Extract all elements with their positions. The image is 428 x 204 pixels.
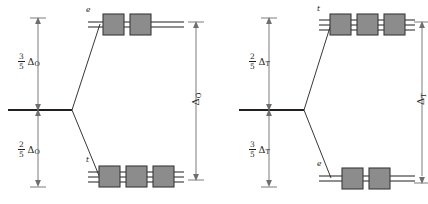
delta-symbol: Δ xyxy=(415,98,426,105)
lower-splitting-delta: ΔT xyxy=(259,145,270,155)
delta-subscript: T xyxy=(420,93,428,98)
orbital-box xyxy=(126,166,147,187)
upper-splitting-fraction: 2 5 xyxy=(249,53,256,70)
lower-level-label: t xyxy=(86,156,89,164)
lower-splitting-fraction: 3 5 xyxy=(249,141,256,158)
lower-measure-arrowhead-bottom xyxy=(35,180,41,187)
orbital-box xyxy=(369,168,390,189)
total-splitting-label: ΔT xyxy=(416,86,426,112)
upper-splitting-delta: ΔT xyxy=(259,57,270,67)
lower-measure-arrowhead-bottom xyxy=(266,180,272,187)
upper-level-label: t xyxy=(317,5,320,13)
correlation-line-upper xyxy=(304,24,331,110)
orbital-box xyxy=(130,14,151,35)
correlation-line-lower xyxy=(72,110,100,178)
octahedral-diagram-graphics xyxy=(0,0,214,204)
delta-symbol: Δ xyxy=(190,98,201,105)
tetrahedral-diagram-graphics xyxy=(214,0,428,204)
delta-subscript: O xyxy=(34,60,39,68)
lower-splitting-label: 3 5 ΔT xyxy=(249,141,270,158)
octahedral-splitting-diagram: 3 5 ΔO 2 5 ΔO e t ΔO xyxy=(0,0,214,204)
correlation-line-upper xyxy=(72,24,100,110)
delta-subscript: O xyxy=(195,93,203,99)
tetrahedral-splitting-diagram: 2 5 ΔT 3 5 ΔT t e ΔT xyxy=(214,0,428,204)
delta-subscript: T xyxy=(265,148,269,156)
fraction-denominator: 5 xyxy=(18,63,25,71)
upper-splitting-label: 3 5 ΔO xyxy=(18,53,40,70)
fraction-numerator: 2 xyxy=(18,141,25,149)
total-splitting-label: ΔO xyxy=(191,86,201,112)
fraction-denominator: 5 xyxy=(249,63,256,71)
upper-splitting-fraction: 3 5 xyxy=(18,53,25,70)
upper-splitting-label: 2 5 ΔT xyxy=(249,53,270,70)
lower-splitting-fraction: 2 5 xyxy=(18,141,25,158)
orbital-box xyxy=(357,14,378,35)
orbital-box xyxy=(99,166,120,187)
orbital-box xyxy=(342,168,363,189)
delta-subscript: T xyxy=(265,60,269,68)
orbital-box xyxy=(384,14,405,35)
upper-splitting-delta: ΔO xyxy=(28,57,40,67)
fraction-numerator: 3 xyxy=(249,141,256,149)
fraction-denominator: 5 xyxy=(249,151,256,159)
fraction-denominator: 5 xyxy=(18,151,25,159)
lower-level-label: e xyxy=(317,160,321,168)
fraction-numerator: 3 xyxy=(18,53,25,61)
upper-level-label: e xyxy=(86,6,90,14)
orbital-box xyxy=(330,14,351,35)
lower-splitting-label: 2 5 ΔO xyxy=(18,141,40,158)
orbital-box xyxy=(153,166,174,187)
orbital-box xyxy=(103,14,124,35)
fraction-numerator: 2 xyxy=(249,53,256,61)
lower-splitting-delta: ΔO xyxy=(28,145,40,155)
delta-subscript: O xyxy=(34,148,39,156)
